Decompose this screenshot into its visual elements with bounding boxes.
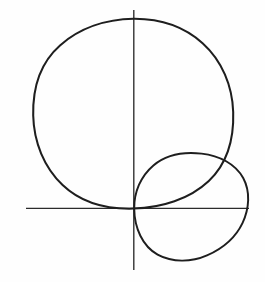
geometry-figure-canvas — [0, 0, 265, 282]
figure-container: Two circles tangent to coordinate axes L… — [0, 0, 265, 282]
